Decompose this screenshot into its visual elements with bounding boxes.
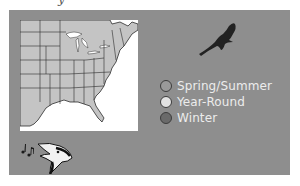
legend-label: Year-Round xyxy=(177,95,245,109)
range-map xyxy=(20,20,138,131)
winter-swatch-icon xyxy=(160,112,172,124)
legend-item-spring-summer: Spring/Summer xyxy=(160,78,272,93)
legend-label: Winter xyxy=(177,111,217,125)
legend: Spring/Summer Year-Round Winter xyxy=(160,78,272,126)
year-round-swatch-icon xyxy=(160,96,172,108)
legend-item-year-round: Year-Round xyxy=(160,94,272,109)
hawk-silhouette-icon xyxy=(199,20,245,56)
singing-bird-icon xyxy=(20,138,80,174)
legend-item-winter: Winter xyxy=(160,110,272,125)
music-notes-icon xyxy=(21,144,34,157)
spring-summer-swatch-icon xyxy=(160,80,172,92)
title-fragment: y xyxy=(58,0,65,6)
legend-label: Spring/Summer xyxy=(177,79,272,93)
eastern-us-map xyxy=(20,20,138,131)
